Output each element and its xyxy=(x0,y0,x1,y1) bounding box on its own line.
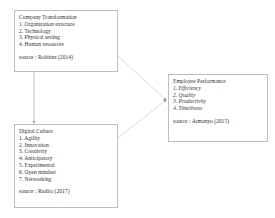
list-item: 2. Technology xyxy=(19,28,113,35)
company-transformation-title: Company Transformation xyxy=(19,14,113,21)
list-item: 2. Innovation xyxy=(19,142,113,149)
arrow-company-to-performance xyxy=(118,56,166,100)
employee-performance-box: Employee Performance 1. Efficiency 2. Qu… xyxy=(168,74,268,142)
list-item: 3. Physical setting xyxy=(19,34,113,41)
employee-performance-title: Employee Performance xyxy=(173,78,263,85)
arrow-digital-to-performance xyxy=(118,100,166,138)
list-item: 4. Human resources xyxy=(19,41,113,48)
list-item: 2. Quality xyxy=(173,92,263,99)
list-item: 1. Agility xyxy=(19,135,113,142)
company-transformation-source: source : Robbins (2014) xyxy=(19,54,113,61)
list-item: 1. Efficiency xyxy=(173,85,263,92)
digital-culture-box: Digital Culture 1. Agility 2. Innovation… xyxy=(14,124,118,208)
list-item: 7. Networking xyxy=(19,176,113,183)
digital-culture-title: Digital Culture xyxy=(19,128,113,135)
list-item: 1. Organization structure xyxy=(19,21,113,28)
digital-culture-source: source : Rudito (2017) xyxy=(19,188,113,195)
employee-performance-source: source : Armanyo (2015) xyxy=(173,118,263,125)
list-item: 4. Anticipatory xyxy=(19,155,113,162)
company-transformation-box: Company Transformation 1. Organization s… xyxy=(14,10,118,72)
list-item: 4. Timeliness xyxy=(173,105,263,112)
list-item: 5. Experimental xyxy=(19,162,113,169)
list-item: 6. Open mindset xyxy=(19,169,113,176)
list-item: 3. Productivity xyxy=(173,98,263,105)
list-item: 3. Creativity xyxy=(19,148,113,155)
